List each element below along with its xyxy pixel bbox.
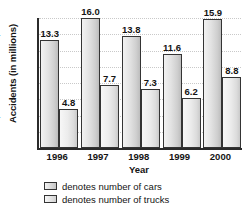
bar-value-label: 4.8 <box>54 98 83 108</box>
bar-trucks-1999 <box>182 98 201 148</box>
x-axis-tick-label-1999: 1999 <box>162 151 198 162</box>
bar-value-label: 7.7 <box>95 74 124 84</box>
bar-trucks-1998 <box>141 89 160 148</box>
bar-cars-1996 <box>40 40 59 148</box>
plot-area: 024681012141613.34.816.07.713.87.311.66.… <box>37 18 242 150</box>
bar-value-label: 13.3 <box>35 29 64 39</box>
legend-label-cars: denotes number of cars <box>62 181 162 192</box>
bar-value-label: 7.3 <box>136 78 165 88</box>
bar-trucks-1997 <box>100 85 119 148</box>
x-axis-tick-label-1997: 1997 <box>80 151 116 162</box>
bar-trucks-2000 <box>222 77 241 149</box>
bar-value-label: 15.9 <box>198 8 227 18</box>
bar-cars-2000 <box>203 19 222 148</box>
bar-cars-1998 <box>122 36 141 148</box>
bar-value-label: 13.8 <box>117 25 146 35</box>
bar-value-label: 11.6 <box>158 43 187 53</box>
bar-value-label: 16.0 <box>76 7 105 17</box>
x-axis-title: Year <box>37 164 241 175</box>
bar-chart-figure: Accidents (in millions) 024681012141613.… <box>0 0 242 207</box>
legend-label-trucks: denotes number of trucks <box>62 194 169 205</box>
bar-value-label: 8.8 <box>217 66 242 76</box>
bar-trucks-1996 <box>59 109 78 148</box>
x-axis-tick-label-1996: 1996 <box>39 151 75 162</box>
x-axis-tick-label-2000: 2000 <box>202 151 238 162</box>
legend-item-trucks: denotes number of trucks <box>44 193 169 205</box>
trucks-swatch-icon <box>44 195 57 203</box>
x-axis-tick-label-1998: 1998 <box>121 151 157 162</box>
bar-cars-1999 <box>163 54 182 148</box>
bar-value-label: 6.2 <box>177 87 206 97</box>
legend-item-cars: denotes number of cars <box>44 180 169 192</box>
cars-swatch-icon <box>44 182 57 190</box>
y-axis-title: Accidents (in millions) <box>7 9 18 139</box>
chart-legend: denotes number of cars denotes number of… <box>44 180 169 206</box>
